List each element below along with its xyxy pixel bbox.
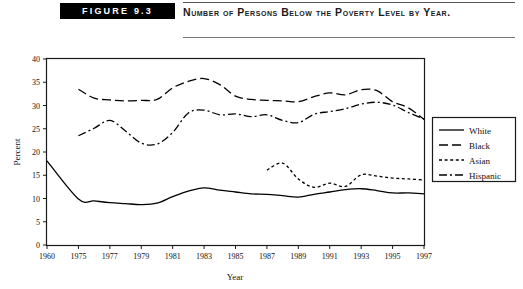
x-tick-label: 1991: [322, 252, 338, 261]
y-tick-label: 10: [32, 195, 40, 204]
y-tick-label: 0: [36, 241, 40, 250]
series-line-asian: [267, 163, 424, 187]
x-tick-label: 1987: [259, 252, 275, 261]
x-axis-tick-labels: 1960197519771979198119831985198719891991…: [39, 252, 432, 261]
title-rule-bottom: [183, 37, 515, 38]
x-tick-label: 1977: [102, 252, 118, 261]
legend-label-asian: Asian: [469, 156, 490, 166]
legend-items: WhiteBlackAsianHispanic: [439, 126, 501, 181]
x-tick-label: 1993: [353, 252, 369, 261]
title-rule-top: [183, 2, 515, 3]
legend-label-white: White: [469, 126, 491, 136]
series-line-black: [78, 78, 424, 119]
y-tick-label: 25: [32, 125, 40, 134]
y-axis-tick-labels: 0510152025303540: [32, 55, 40, 250]
series-line-hispanic: [78, 102, 424, 145]
x-tick-label: 1983: [196, 252, 212, 261]
x-tick-label: 1981: [165, 252, 181, 261]
y-tick-label: 15: [32, 171, 40, 180]
data-series-group: [47, 78, 424, 204]
y-tick-label: 30: [32, 102, 40, 111]
x-tick-label: 1975: [70, 252, 86, 261]
x-tick-label: 1985: [228, 252, 244, 261]
plot-frame: [47, 59, 425, 246]
series-line-white: [47, 161, 424, 205]
legend-label-hispanic: Hispanic: [469, 171, 501, 181]
y-tick-label: 40: [32, 55, 40, 64]
chart-legend: WhiteBlackAsianHispanic: [433, 118, 516, 182]
y-tick-label: 5: [36, 218, 40, 227]
figure-header: FIGURE 9.3 Number of Persons Below the P…: [0, 0, 523, 44]
x-axis-title: Year: [227, 272, 244, 282]
figure-title: Number of Persons Below the Poverty Leve…: [183, 5, 515, 19]
poverty-line-chart: 0510152025303540 19601975197719791981198…: [0, 44, 523, 289]
x-tick-label: 1995: [385, 252, 401, 261]
x-tick-label: 1960: [39, 252, 55, 261]
y-axis-title: Percent: [12, 138, 22, 165]
chart-region: 0510152025303540 19601975197719791981198…: [0, 44, 523, 289]
x-tick-label: 1997: [416, 252, 432, 261]
y-tick-label: 35: [32, 78, 40, 87]
figure-number-badge: FIGURE 9.3: [60, 3, 175, 19]
x-tick-label: 1989: [290, 252, 306, 261]
x-tick-label: 1979: [133, 252, 149, 261]
legend-label-black: Black: [469, 141, 490, 151]
y-tick-label: 20: [32, 148, 40, 157]
